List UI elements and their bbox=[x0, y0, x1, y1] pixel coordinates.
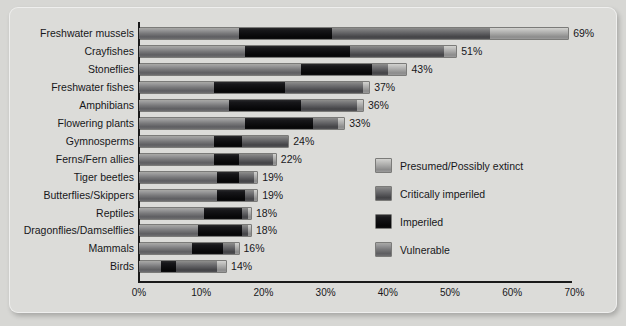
bar-value-label: 18% bbox=[256, 207, 277, 219]
bar-segment-extinct bbox=[388, 64, 407, 75]
bar-segment-imperiled bbox=[245, 46, 351, 57]
category-label: Amphibians bbox=[6, 99, 134, 111]
legend-item: Vulnerable bbox=[376, 242, 523, 257]
bar-segment-critically bbox=[239, 154, 273, 165]
legend-item: Imperiled bbox=[376, 214, 523, 229]
bar-segment-extinct bbox=[248, 225, 251, 236]
stacked-bar bbox=[139, 136, 288, 147]
bar-value-label: 18% bbox=[256, 224, 277, 236]
category-label: Stoneflies bbox=[6, 63, 134, 75]
bar-segment-vulnerable bbox=[139, 118, 245, 129]
category-label: Reptiles bbox=[6, 207, 134, 219]
bar-segment-extinct bbox=[338, 118, 344, 129]
bar-segment-critically bbox=[313, 118, 338, 129]
bar-segment-critically bbox=[301, 100, 357, 111]
stacked-bar bbox=[139, 208, 251, 219]
x-tick-label: 30% bbox=[316, 287, 336, 298]
bar-segment-extinct bbox=[235, 243, 238, 254]
bar-segment-critically bbox=[332, 28, 491, 39]
bar-segment-critically bbox=[350, 46, 443, 57]
bar-segment-critically bbox=[176, 261, 216, 272]
category-axis-labels: Freshwater musselsCrayfishesStonefliesFr… bbox=[4, 24, 134, 274]
category-label: Mammals bbox=[6, 242, 134, 254]
bar-segment-imperiled bbox=[217, 172, 239, 183]
bar-value-label: 37% bbox=[374, 81, 395, 93]
stacked-bar bbox=[139, 118, 344, 129]
bar-segment-extinct bbox=[273, 154, 276, 165]
bar-segment-critically bbox=[242, 136, 289, 147]
x-tick-label: 20% bbox=[253, 287, 273, 298]
category-label: Dragonflies/Damselflies bbox=[6, 224, 134, 236]
stacked-bar bbox=[139, 243, 239, 254]
stacked-bar bbox=[139, 64, 406, 75]
bar-segment-extinct bbox=[248, 208, 251, 219]
bar-segment-critically bbox=[223, 243, 235, 254]
bar-segment-imperiled bbox=[214, 154, 239, 165]
stacked-bar bbox=[139, 154, 276, 165]
bar-value-label: 22% bbox=[281, 153, 302, 165]
chart-legend: Presumed/Possibly extinctCritically impe… bbox=[376, 158, 523, 270]
bar-value-label: 16% bbox=[244, 242, 265, 254]
legend-label: Presumed/Possibly extinct bbox=[400, 160, 523, 172]
category-label: Flowering plants bbox=[6, 117, 134, 129]
legend-label: Imperiled bbox=[400, 216, 443, 228]
bar-segment-vulnerable bbox=[139, 28, 239, 39]
bar-segment-vulnerable bbox=[139, 136, 214, 147]
bar-segment-imperiled bbox=[214, 82, 286, 93]
legend-item: Presumed/Possibly extinct bbox=[376, 158, 523, 173]
stacked-bar bbox=[139, 46, 456, 57]
bar-value-label: 43% bbox=[411, 63, 432, 75]
legend-swatch-critically bbox=[376, 187, 391, 200]
category-label: Ferns/Fern allies bbox=[6, 153, 134, 165]
bar-segment-imperiled bbox=[229, 100, 301, 111]
x-tick-label: 10% bbox=[191, 287, 211, 298]
stacked-bar bbox=[139, 28, 568, 39]
category-label: Freshwater fishes bbox=[6, 81, 134, 93]
x-tick-label: 0% bbox=[132, 287, 146, 298]
bar-segment-imperiled bbox=[217, 190, 245, 201]
bar-value-label: 33% bbox=[349, 117, 370, 129]
bar-segment-extinct bbox=[217, 261, 226, 272]
stacked-bar bbox=[139, 100, 363, 111]
legend-label: Critically imperiled bbox=[400, 188, 485, 200]
legend-swatch-extinct bbox=[376, 159, 391, 172]
bar-segment-imperiled bbox=[214, 136, 242, 147]
stacked-bar bbox=[139, 82, 369, 93]
category-label: Butterflies/Skippers bbox=[6, 189, 134, 201]
x-tick-label: 50% bbox=[440, 287, 460, 298]
bar-segment-vulnerable bbox=[139, 261, 161, 272]
bar-segment-imperiled bbox=[192, 243, 223, 254]
legend-swatch-imperiled bbox=[376, 215, 391, 228]
bar-segment-critically bbox=[285, 82, 363, 93]
bar-segment-vulnerable bbox=[139, 64, 301, 75]
legend-swatch-vulnerable bbox=[376, 243, 391, 256]
bar-segment-imperiled bbox=[245, 118, 313, 129]
bar-segment-extinct bbox=[357, 100, 363, 111]
bar-segment-vulnerable bbox=[139, 82, 214, 93]
bar-segment-imperiled bbox=[161, 261, 177, 272]
x-axis-line bbox=[138, 281, 572, 283]
category-label: Freshwater mussels bbox=[6, 27, 134, 39]
category-label: Tiger beetles bbox=[6, 171, 134, 183]
bar-segment-imperiled bbox=[301, 64, 373, 75]
chart-figure: Freshwater musselsCrayfishesStonefliesFr… bbox=[0, 0, 626, 326]
bar-value-label: 14% bbox=[231, 260, 252, 272]
bar-segment-extinct bbox=[490, 28, 568, 39]
x-tick-label: 60% bbox=[502, 287, 522, 298]
stacked-bar bbox=[139, 172, 257, 183]
bar-segment-extinct bbox=[254, 172, 257, 183]
stacked-bar bbox=[139, 261, 226, 272]
stacked-bar bbox=[139, 190, 257, 201]
legend-label: Vulnerable bbox=[400, 244, 450, 256]
bar-value-label: 51% bbox=[461, 45, 482, 57]
bar-value-label: 36% bbox=[368, 99, 389, 111]
bar-segment-critically bbox=[245, 190, 254, 201]
bar-segment-vulnerable bbox=[139, 154, 214, 165]
bar-segment-critically bbox=[239, 172, 255, 183]
bar-value-label: 19% bbox=[262, 189, 283, 201]
chart-plot-area: Freshwater musselsCrayfishesStonefliesFr… bbox=[0, 0, 626, 326]
bar-segment-extinct bbox=[254, 190, 257, 201]
bar-segment-vulnerable bbox=[139, 190, 217, 201]
bar-value-label: 24% bbox=[293, 135, 314, 147]
bar-segment-vulnerable bbox=[139, 208, 204, 219]
